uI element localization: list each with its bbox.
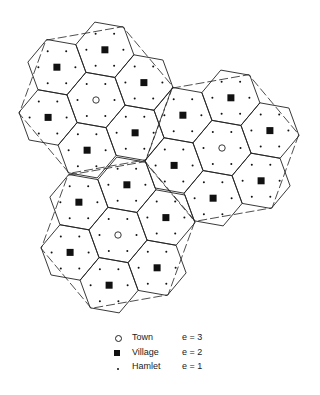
hamlet-dot-icon xyxy=(164,148,166,150)
hamlet-dot-icon xyxy=(269,196,271,198)
hamlet-dot-icon xyxy=(38,100,40,102)
hamlet-dot-icon xyxy=(230,131,232,133)
hamlet-dot-icon xyxy=(99,300,101,302)
hamlet-dot-icon xyxy=(242,180,244,182)
village-square-icon xyxy=(84,147,91,154)
town-circle-icon xyxy=(115,232,121,238)
village-square-icon xyxy=(210,195,217,202)
hamlet-dot-icon xyxy=(203,147,205,149)
hamlet-dot-icon xyxy=(99,234,101,236)
hamlet-dot-icon xyxy=(134,98,136,100)
hamlet-dot-icon xyxy=(146,217,148,219)
hamlet-dot-icon xyxy=(239,81,241,83)
hamlet-dot-icon xyxy=(144,184,146,186)
village-square-icon xyxy=(53,64,60,71)
hamlet-dot-icon xyxy=(287,130,289,132)
hamlet-dot-icon xyxy=(114,99,116,101)
hamlet-dot-icon xyxy=(278,114,280,116)
hamlet-dot-icon xyxy=(105,149,107,151)
hamlet-dot-icon xyxy=(152,98,154,100)
hamlet-dot-icon xyxy=(51,251,53,253)
village-square-icon xyxy=(132,129,139,136)
legend-row-hamlet: Hamlet e = 1 xyxy=(110,361,230,376)
hamlet-dot-icon xyxy=(203,181,205,183)
legend-label-hamlet: Hamlet xyxy=(132,361,161,371)
hamlet-dot-icon xyxy=(78,235,80,237)
hamlet-dot-icon xyxy=(165,251,167,253)
hamlet-dot-icon xyxy=(165,283,167,285)
hamlet-dot-icon xyxy=(113,65,115,67)
hamlet-dot-icon xyxy=(182,148,184,150)
hamlet-dot-icon xyxy=(135,168,137,170)
hamlet-dot-icon xyxy=(175,267,177,269)
hamlet-dot-icon xyxy=(78,268,80,270)
hamlet-dot-icon xyxy=(60,268,62,270)
hamlet-dot-icon xyxy=(251,196,253,198)
hamlet-dot-icon xyxy=(152,66,154,68)
hamlet-dot-icon xyxy=(251,164,253,166)
hamlet-dot-icon xyxy=(88,251,90,253)
hamlet-dot-icon xyxy=(182,181,184,183)
hamlet-dot-icon xyxy=(69,217,71,219)
hamlet-dot-icon xyxy=(221,181,223,183)
hamlet-dot-icon xyxy=(156,233,158,235)
legend-row-town: Town e = 3 xyxy=(110,332,230,347)
hamlet-markers xyxy=(29,33,290,302)
hamlet-dot-icon xyxy=(278,146,280,148)
village-square-icon xyxy=(101,46,108,53)
hamlet-dot-icon xyxy=(191,98,193,100)
hamlet-dot-icon xyxy=(95,33,97,35)
legend-row-village: Village e = 2 xyxy=(110,347,230,362)
hamlet-dot-icon xyxy=(248,97,250,99)
hamlet-dot-icon xyxy=(87,185,89,187)
town-circle-icon xyxy=(219,145,225,151)
hamlet-dot-icon xyxy=(156,201,158,203)
town-markers xyxy=(93,97,225,238)
village-square-icon xyxy=(258,177,265,184)
legend: Town e = 3 Village e = 2 Hamlet e = 1 xyxy=(110,332,230,376)
hamlet-dot-icon xyxy=(56,133,58,135)
hamlet-dot-icon xyxy=(147,251,149,253)
hamlet-dot-icon xyxy=(192,164,194,166)
hamlet-dot-icon xyxy=(125,148,127,150)
hamlet-dot-icon xyxy=(239,113,241,115)
hamlet-dot-icon xyxy=(65,50,67,52)
legend-value-town: e = 3 xyxy=(182,332,202,342)
hamlet-dot-icon xyxy=(173,98,175,100)
hamlet-dot-icon xyxy=(260,146,262,148)
hamlet-dot-icon xyxy=(124,82,126,84)
village-square-icon xyxy=(140,79,147,86)
hamlet-dot-icon xyxy=(86,115,88,117)
hamlet-dot-icon xyxy=(77,165,79,167)
village-square-icon xyxy=(154,264,161,271)
hamlet-dot-icon xyxy=(125,116,127,118)
hamlet-dot-icon xyxy=(155,164,157,166)
village-square-icon xyxy=(114,350,120,356)
hamlet-dot-icon xyxy=(77,99,79,101)
hamlet-dot-icon xyxy=(113,33,115,35)
hamlet-dot-icon xyxy=(163,114,165,116)
hamlet-dot-icon xyxy=(117,368,119,370)
hamlet-dot-icon xyxy=(117,200,119,202)
hamlet-dot-icon xyxy=(96,201,98,203)
legend-value-village: e = 2 xyxy=(182,347,202,357)
hamlet-dot-icon xyxy=(65,82,67,84)
hamlet-dot-icon xyxy=(122,49,124,51)
central-place-diagram xyxy=(0,0,320,330)
hamlet-dot-icon xyxy=(147,283,149,285)
hamlet-dot-icon xyxy=(104,115,106,117)
hamlet-dot-icon xyxy=(47,82,49,84)
hamlet-dot-icon xyxy=(164,181,166,183)
hamlet-dot-icon xyxy=(108,218,110,220)
hamlet-dot-icon xyxy=(134,66,136,68)
hamlet-dot-icon xyxy=(29,116,31,118)
hamlet-dot-icon xyxy=(212,131,214,133)
hamlet-dot-icon xyxy=(95,133,97,135)
hamlet-dot-icon xyxy=(138,267,140,269)
hamlet-dot-icon xyxy=(126,250,128,252)
hamlet-dot-icon xyxy=(87,217,89,219)
hamlet-dot-icon xyxy=(143,148,145,150)
hamlet-dot-icon xyxy=(117,168,119,170)
hamlet-dot-icon xyxy=(108,250,110,252)
hamlet-dot-icon xyxy=(269,164,271,166)
